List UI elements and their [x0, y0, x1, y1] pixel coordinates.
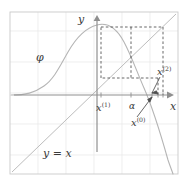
x1-label: x(1)	[96, 102, 110, 113]
x2-superscript: (2)	[163, 65, 172, 72]
phi-curve-label: φ	[36, 52, 44, 63]
x-axis-label: x	[170, 101, 176, 112]
fixed-point-iteration-figure: y x φ y = x α x(1) x(0) x(2)	[0, 0, 188, 185]
alpha-label: α	[129, 102, 135, 111]
cobweb-dashed-path	[101, 27, 163, 95]
x1-superscript: (1)	[102, 101, 111, 108]
x-axis-arrowhead	[167, 92, 174, 99]
x0-label: x(0)	[131, 117, 145, 128]
y-axis-label: y	[78, 14, 84, 25]
figure-canvas	[0, 0, 188, 185]
x2-label: x(2)	[157, 66, 171, 77]
leader-arrows	[137, 77, 160, 117]
y-axis-arrowhead	[94, 15, 101, 21]
x0-superscript: (0)	[137, 116, 146, 123]
identity-line-label: y = x	[43, 148, 72, 159]
